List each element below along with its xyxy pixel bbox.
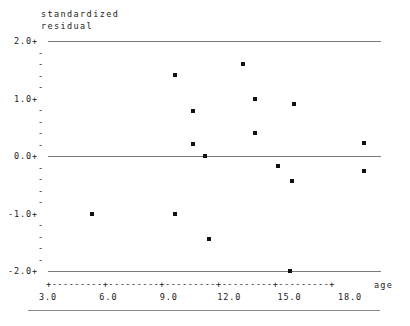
x-tick-label: 15.0 [270, 292, 310, 302]
data-point [362, 141, 366, 145]
data-point [276, 164, 280, 168]
data-point [253, 97, 257, 101]
gridline [48, 156, 381, 157]
y-tick-label: 2.0+ [4, 36, 38, 46]
y-tick-label: 0.0+ [4, 151, 38, 161]
y-tick-minor: - [38, 105, 43, 115]
data-point [191, 109, 195, 113]
x-tick-label: 9.0 [149, 292, 189, 302]
data-point [90, 212, 94, 216]
data-point [203, 154, 207, 158]
x-tick-label: 3.0 [28, 292, 68, 302]
y-tick-minor: - [38, 186, 43, 196]
gridline [48, 271, 381, 272]
scatter-plot-canvas: standardized residual 2.0+----1.0+----0.… [0, 0, 410, 326]
x-axis-label: age [374, 280, 393, 290]
data-point [241, 62, 245, 66]
y-tick-minor: - [38, 128, 43, 138]
y-tick-minor: - [38, 140, 43, 150]
y-tick-minor: - [38, 220, 43, 230]
data-point [173, 73, 177, 77]
y-tick-minor: - [38, 232, 43, 242]
x-tick-label: 12.0 [209, 292, 249, 302]
data-point [362, 169, 366, 173]
x-tick-label: 18.0 [330, 292, 370, 302]
data-point [173, 212, 177, 216]
y-tick-minor: - [38, 59, 43, 69]
y-tick-minor: - [38, 117, 43, 127]
y-tick-label: -1.0+ [4, 209, 38, 219]
data-point [207, 237, 211, 241]
y-tick-minor: - [38, 243, 43, 253]
data-point [253, 131, 257, 135]
y-tick-minor: - [38, 255, 43, 265]
data-point [292, 102, 296, 106]
gridline [48, 41, 381, 42]
y-axis-title-line1: standardized [41, 9, 119, 19]
y-tick-label: -2.0+ [4, 266, 38, 276]
y-tick-minor: - [38, 163, 43, 173]
y-axis-title-line2: residual [41, 21, 93, 31]
y-tick-minor: - [38, 82, 43, 92]
y-tick-minor: - [38, 71, 43, 81]
y-tick-label: 1.0+ [4, 94, 38, 104]
y-tick-minor: - [38, 197, 43, 207]
bottom-divider [28, 310, 380, 311]
x-tick-label: 6.0 [88, 292, 128, 302]
y-tick-minor: - [38, 174, 43, 184]
data-point [191, 142, 195, 146]
data-point [290, 179, 294, 183]
x-axis-rule: +---------+---------+---------+---------… [46, 279, 335, 289]
y-tick-minor: - [38, 48, 43, 58]
data-point [288, 269, 292, 273]
